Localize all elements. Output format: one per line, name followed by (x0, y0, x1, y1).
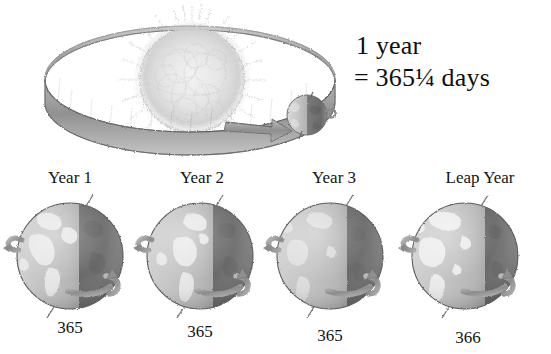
globe-leap-year (398, 195, 518, 318)
days-year-1: 365 (57, 318, 83, 338)
axis-top (346, 195, 353, 206)
globe-year-2 (133, 195, 259, 318)
axis-bottom (177, 307, 184, 318)
days-year-3: 365 (317, 326, 343, 346)
axis-top (86, 195, 93, 206)
days-leap-year: 366 (455, 328, 481, 348)
axis-top (216, 195, 223, 206)
label-year-2: Year 2 (180, 168, 224, 188)
diagram-canvas: 1 year = 365¼ days (0, 0, 551, 354)
globe-year-3 (263, 195, 389, 318)
axis-bottom (47, 307, 54, 318)
days-year-2: 365 (187, 322, 213, 342)
axis-bottom (307, 307, 314, 318)
label-year-3: Year 3 (312, 168, 356, 188)
globe-year-1 (3, 195, 129, 318)
label-leap-year: Leap Year (446, 168, 515, 188)
axis-top (481, 195, 488, 206)
label-year-1: Year 1 (48, 168, 92, 188)
axis-bottom (442, 307, 449, 318)
